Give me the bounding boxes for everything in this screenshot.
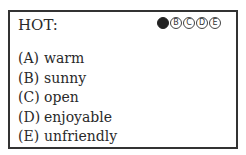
option-list: (A)warm (B)sunny (C)open (D)enjoyable (E… [18, 49, 117, 147]
bubble-a[interactable]: A [157, 17, 169, 29]
option-letter: (E) [18, 127, 44, 147]
option-letter: (D) [18, 108, 44, 128]
bubble-d[interactable]: D [196, 17, 208, 29]
option-letter: (A) [18, 49, 44, 69]
option-b: (B)sunny [18, 69, 117, 89]
question-card: HOT: A B C D E (A)warm (B)sunny (C)open … [8, 10, 238, 149]
option-text: unfriendly [44, 128, 117, 144]
option-letter: (C) [18, 88, 44, 108]
option-text: warm [44, 50, 84, 66]
bubble-b[interactable]: B [170, 17, 182, 29]
option-c: (C)open [18, 88, 117, 108]
question-word: HOT: [18, 16, 58, 34]
answer-bubbles: A B C D E [157, 17, 221, 29]
option-text: sunny [44, 70, 86, 86]
option-text: enjoyable [44, 109, 112, 125]
bubble-e[interactable]: E [209, 17, 221, 29]
option-text: open [44, 89, 79, 105]
option-e: (E)unfriendly [18, 127, 117, 147]
option-letter: (B) [18, 69, 44, 89]
bubble-c[interactable]: C [183, 17, 195, 29]
option-d: (D)enjoyable [18, 108, 117, 128]
option-a: (A)warm [18, 49, 117, 69]
